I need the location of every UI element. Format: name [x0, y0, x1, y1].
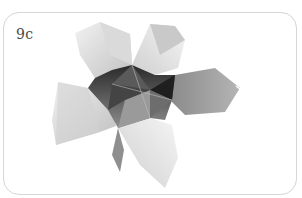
petal-top-right	[132, 24, 185, 75]
petal-bottom	[112, 118, 178, 188]
origami-model-illustration	[0, 0, 302, 198]
petal-right	[170, 68, 241, 116]
